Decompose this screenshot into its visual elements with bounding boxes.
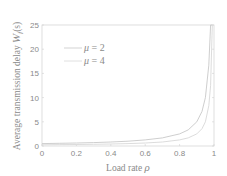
- y-tick-label: 5: [35, 118, 40, 127]
- x-tick-label: 0.2: [71, 149, 83, 158]
- x-tick-label: 0: [40, 149, 45, 158]
- legend-label-mu4: μ = 4: [83, 55, 105, 66]
- x-tick-label: 1: [212, 149, 217, 158]
- line-chart: 0510152025 00.20.40.60.81 μ = 2 μ = 4 Lo…: [0, 0, 227, 176]
- plot-frame: [42, 25, 214, 146]
- y-tick-label: 20: [30, 45, 39, 54]
- data-series: [42, 25, 212, 145]
- y-tick-label: 15: [30, 69, 39, 78]
- y-tick-label: 25: [30, 21, 39, 30]
- x-tick-label: 0.4: [105, 149, 117, 158]
- y-axis-title: Average transmission delay Wf(s): [10, 22, 24, 150]
- x-tick-label: 0.8: [174, 149, 186, 158]
- series-line-1: [42, 25, 212, 144]
- legend-label-mu2: μ = 2: [83, 42, 105, 53]
- x-tick-label: 0.6: [140, 149, 152, 158]
- legend: μ = 2 μ = 4: [64, 42, 105, 66]
- x-axis-title: Load rate ρ: [106, 161, 150, 173]
- y-axis-ticks: 0510152025: [30, 21, 214, 151]
- series-line-2: [42, 25, 212, 145]
- y-tick-label: 10: [30, 94, 39, 103]
